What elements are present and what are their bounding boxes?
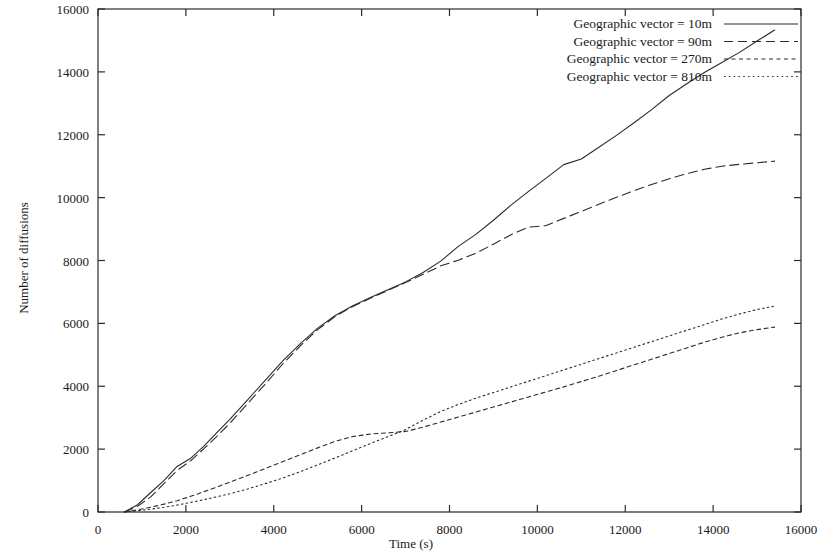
y-tick-label: 2000 xyxy=(63,442,89,457)
x-tick-label: 2000 xyxy=(173,522,199,537)
legend-label-2: Geographic vector = 270m xyxy=(567,51,713,66)
x-tick-label: 10000 xyxy=(521,522,554,537)
series-line-3 xyxy=(124,306,774,512)
y-tick-label: 4000 xyxy=(63,379,89,394)
series-line-2 xyxy=(124,327,774,512)
x-tick-label: 6000 xyxy=(349,522,375,537)
line-chart: 0200040006000800010000120001400016000 02… xyxy=(0,0,822,560)
series-line-0 xyxy=(124,30,774,512)
y-tick-label: 0 xyxy=(83,505,90,520)
y-axis-label: Number of diffusions xyxy=(16,138,32,378)
y-tick-label: 14000 xyxy=(57,65,90,80)
y-tick-label: 12000 xyxy=(57,128,90,143)
legend-label-1: Geographic vector = 90m xyxy=(574,34,713,49)
chart-legend: Geographic vector = 10mGeographic vector… xyxy=(567,16,798,84)
x-tick-label: 14000 xyxy=(697,522,730,537)
y-tick-label: 6000 xyxy=(63,316,89,331)
chart-page: 0200040006000800010000120001400016000 02… xyxy=(0,0,822,560)
x-tick-label: 4000 xyxy=(261,522,287,537)
x-tick-label: 16000 xyxy=(785,522,818,537)
plot-frame xyxy=(98,9,801,512)
data-series-layer xyxy=(124,30,774,512)
series-line-1 xyxy=(124,161,774,512)
x-tick-label: 0 xyxy=(95,522,102,537)
legend-label-3: Geographic vector = 810m xyxy=(567,69,713,84)
legend-label-0: Geographic vector = 10m xyxy=(574,16,713,31)
x-tick-label: 8000 xyxy=(437,522,463,537)
x-axis-ticks: 0200040006000800010000120001400016000 xyxy=(95,9,818,537)
y-tick-label: 10000 xyxy=(57,191,90,206)
y-tick-label: 16000 xyxy=(57,2,90,17)
x-tick-label: 12000 xyxy=(609,522,642,537)
x-axis-label: Time (s) xyxy=(0,536,822,552)
y-tick-label: 8000 xyxy=(63,254,89,269)
